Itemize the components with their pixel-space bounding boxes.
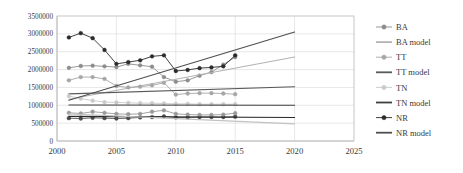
data-point	[233, 111, 237, 115]
y-tick-label: 1000000	[28, 102, 54, 110]
data-point	[115, 112, 119, 116]
data-point	[91, 64, 95, 68]
data-point	[150, 110, 154, 114]
x-tick-label: 2000	[48, 146, 65, 156]
legend: BABA modelTTTT modelTNTN modelNRNR model	[376, 22, 432, 138]
legend-item-ba-model[interactable]: BA model	[376, 37, 431, 47]
legend-label: TT model	[396, 67, 430, 77]
legend-label: BA	[396, 22, 409, 32]
legend-item-tt-model[interactable]: TT model	[376, 67, 430, 77]
data-point	[67, 78, 71, 82]
y-tick-label: 3000000	[28, 30, 54, 38]
data-point	[174, 93, 178, 97]
legend-item-nr-model[interactable]: NR model	[376, 128, 432, 138]
data-point	[233, 53, 237, 57]
data-point	[162, 108, 166, 112]
x-tick-label: 2015	[227, 146, 244, 156]
data-point	[210, 113, 214, 117]
data-point	[115, 117, 119, 121]
legend-item-ba[interactable]: BA	[376, 22, 409, 32]
data-point	[91, 110, 95, 114]
data-point	[103, 77, 107, 81]
legend-item-tn-model[interactable]: TN model	[376, 98, 431, 108]
chart-container: 0500000100000015000002000000250000030000…	[0, 0, 463, 173]
data-point	[221, 92, 225, 96]
data-point	[221, 113, 225, 117]
legend-swatch-marker	[382, 55, 386, 59]
data-point	[162, 53, 166, 57]
data-point	[126, 101, 130, 105]
legend-item-nr[interactable]: NR	[376, 113, 408, 123]
x-tick-label: 2005	[108, 146, 125, 156]
x-tick-label: 2025	[345, 146, 362, 156]
data-point	[186, 78, 190, 82]
line-chart: 0500000100000015000002000000250000030000…	[0, 0, 463, 173]
data-point	[103, 64, 107, 68]
data-point	[79, 75, 83, 79]
data-point	[210, 91, 214, 95]
legend-label: TN model	[396, 98, 431, 108]
series-group	[67, 31, 295, 124]
data-point	[174, 69, 178, 73]
data-point	[115, 101, 119, 105]
data-point	[150, 83, 154, 87]
data-point	[138, 112, 142, 116]
x-axis-labels: 200020052010201520202025	[48, 146, 362, 156]
y-axis-labels: 0500000100000015000002000000250000030000…	[28, 13, 54, 146]
data-point	[150, 65, 154, 69]
legend-swatch-marker	[382, 25, 386, 29]
data-point	[198, 91, 202, 95]
legend-label: BA model	[396, 37, 431, 47]
legend-item-tt[interactable]: TT	[376, 52, 407, 62]
data-point	[115, 62, 119, 66]
legend-label: TN	[396, 83, 407, 93]
data-point	[126, 86, 130, 90]
legend-label: NR model	[396, 128, 432, 138]
data-point	[174, 80, 178, 84]
data-point	[67, 36, 71, 40]
data-point	[150, 101, 154, 105]
data-point	[221, 64, 225, 68]
data-point	[138, 63, 142, 67]
data-point	[198, 66, 202, 70]
data-point	[233, 92, 237, 96]
y-tick-label: 0	[49, 138, 53, 146]
y-tick-label: 1500000	[28, 84, 54, 92]
data-point	[138, 101, 142, 105]
data-point	[186, 92, 190, 96]
x-tick-label: 2020	[286, 146, 303, 156]
data-point	[186, 113, 190, 117]
legend-item-tn[interactable]: TN	[376, 83, 407, 93]
data-point	[162, 81, 166, 85]
legend-label: NR	[396, 113, 408, 123]
y-tick-label: 2000000	[28, 66, 54, 74]
data-point	[67, 94, 71, 98]
data-point	[150, 54, 154, 58]
legend-label: TT	[396, 52, 407, 62]
data-point	[79, 117, 83, 121]
y-tick-label: 500000	[31, 120, 53, 128]
legend-swatch-marker	[382, 85, 386, 89]
data-point	[186, 68, 190, 72]
y-tick-label: 3500000	[28, 13, 54, 21]
data-point	[103, 100, 107, 104]
data-point	[138, 85, 142, 89]
data-point	[126, 112, 130, 116]
data-point	[67, 66, 71, 70]
data-point	[126, 60, 130, 64]
data-point	[138, 58, 142, 62]
data-point	[91, 75, 95, 79]
data-point	[103, 111, 107, 115]
data-point	[198, 113, 202, 117]
data-point	[91, 99, 95, 103]
x-tick-label: 2010	[167, 146, 184, 156]
data-point	[210, 66, 214, 70]
data-point	[79, 64, 83, 68]
data-point	[162, 75, 166, 79]
data-point	[103, 48, 107, 52]
data-point	[79, 31, 83, 35]
y-tick-label: 2500000	[28, 48, 54, 56]
data-point	[91, 36, 95, 40]
data-point	[174, 112, 178, 116]
legend-swatch-marker	[382, 115, 386, 119]
